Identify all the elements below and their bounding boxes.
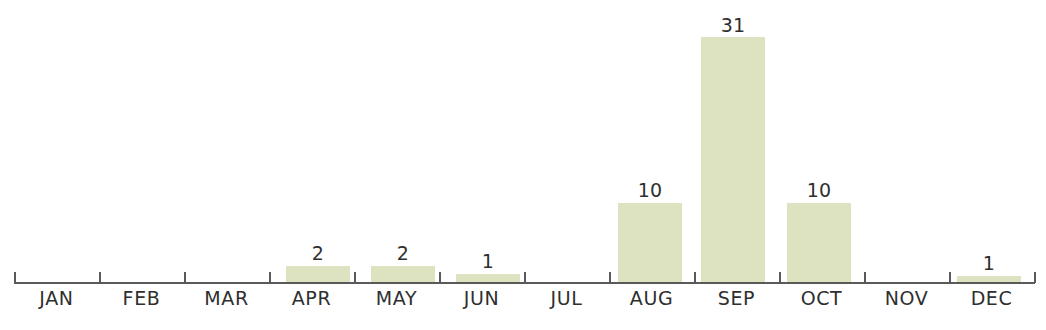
bar-value-label-may: 2 xyxy=(371,244,435,263)
x-axis-label-aug: AUG xyxy=(609,289,694,308)
axis-tick xyxy=(14,272,16,283)
axis-tick xyxy=(99,272,101,283)
bar-oct xyxy=(787,203,851,282)
x-axis-label-nov: NOV xyxy=(864,289,949,308)
axis-tick xyxy=(694,272,696,283)
x-axis-label-jan: JAN xyxy=(14,289,99,308)
x-axis-label-may: MAY xyxy=(354,289,439,308)
x-axis-label-mar: MAR xyxy=(184,289,269,308)
plot-area: 2 2 1 10 31 10 1 JAN FEB MAR APR MAY JUN… xyxy=(0,0,1046,330)
axis-tick xyxy=(779,272,781,283)
bar-aug xyxy=(618,203,682,282)
x-axis-label-apr: APR xyxy=(269,289,354,308)
bar-may xyxy=(371,266,435,282)
bar-value-label-apr: 2 xyxy=(286,244,350,263)
bar-value-label-oct: 10 xyxy=(787,181,851,200)
bar-value-label-dec: 1 xyxy=(957,254,1021,273)
bar-apr xyxy=(286,266,350,282)
axis-tick xyxy=(609,272,611,283)
bar-chart: 2 2 1 10 31 10 1 JAN FEB MAR APR MAY JUN… xyxy=(0,0,1046,330)
axis-tick xyxy=(949,272,951,283)
x-axis-label-jul: JUL xyxy=(524,289,609,308)
x-axis-label-jun: JUN xyxy=(439,289,524,308)
caption-cutoff-area xyxy=(0,316,1046,330)
x-axis-label-oct: OCT xyxy=(779,289,864,308)
axis-tick xyxy=(439,272,441,283)
axis-tick xyxy=(1034,272,1036,283)
axis-tick xyxy=(864,272,866,283)
x-axis-label-sep: SEP xyxy=(694,289,779,308)
axis-tick xyxy=(184,272,186,283)
axis-tick xyxy=(354,272,356,283)
axis-tick xyxy=(269,272,271,283)
x-axis-label-dec: DEC xyxy=(949,289,1034,308)
bar-value-label-aug: 10 xyxy=(618,181,682,200)
axis-tick xyxy=(524,272,526,283)
x-axis-label-feb: FEB xyxy=(99,289,184,308)
bar-value-label-jun: 1 xyxy=(456,252,520,271)
bar-sep xyxy=(701,37,765,282)
bar-jun xyxy=(456,274,520,282)
bar-value-label-sep: 31 xyxy=(701,16,765,35)
